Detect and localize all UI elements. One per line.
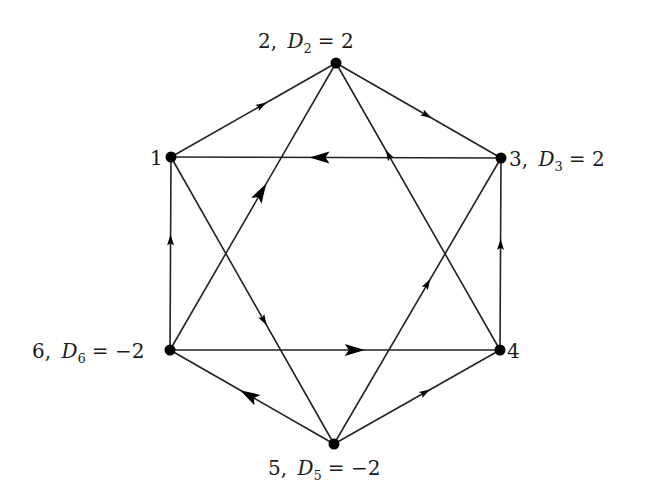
node-2 xyxy=(331,58,342,69)
node-1 xyxy=(166,152,177,163)
nodes-layer xyxy=(165,58,507,450)
edge-4-to-3 xyxy=(500,158,501,350)
node-1-label: 1 xyxy=(150,146,163,170)
directed-graph-diagram: 1 2, D2= 2 3, D3= 2 4 5, D5= −2 6, D6= −… xyxy=(0,0,647,502)
node-5 xyxy=(329,439,340,450)
node-6 xyxy=(165,345,176,356)
edge-1-to-2 xyxy=(171,63,336,157)
arrowhead-icon xyxy=(255,103,266,111)
node-3 xyxy=(496,153,507,164)
arrowhead-icon xyxy=(258,314,266,325)
node-4 xyxy=(495,345,506,356)
arrowhead-icon xyxy=(386,150,394,161)
edges-layer xyxy=(170,63,501,444)
node-3-label: 3, D3= 2 xyxy=(509,147,605,174)
arrowhead-icon xyxy=(422,279,431,290)
node-6-label: 6, D6= −2 xyxy=(32,339,144,366)
edge-2-to-3 xyxy=(336,63,501,158)
arrowhead-icon xyxy=(419,390,430,398)
edge-5-to-4 xyxy=(334,350,500,444)
edge-6-to-1 xyxy=(170,157,171,350)
arrowheads-layer xyxy=(167,103,504,406)
edge-3-to-1 xyxy=(171,157,501,158)
arrowhead-icon xyxy=(251,183,266,203)
arrowhead-icon xyxy=(240,390,260,405)
node-4-label: 4 xyxy=(507,339,520,363)
edge-4-to-2 xyxy=(336,63,500,350)
arrowhead-icon xyxy=(420,109,431,118)
edge-6-to-2 xyxy=(170,63,336,350)
node-5-label: 5, D5= −2 xyxy=(268,456,380,483)
edge-5-to-3 xyxy=(334,158,501,444)
node-2-label: 2, D2= 2 xyxy=(258,29,354,56)
